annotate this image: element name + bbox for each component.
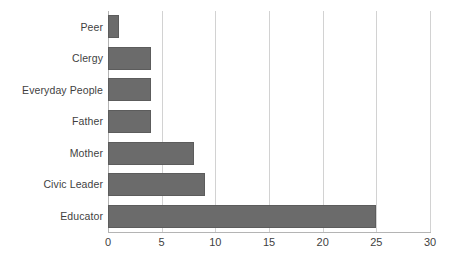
bar-row [108,137,430,169]
value-axis-labels: 051015202530 [108,237,430,255]
category-label-everyday-people: Everyday People [22,85,103,96]
category-label-row: Clergy [0,43,103,75]
bar-row [108,169,430,201]
category-axis: Peer Clergy Everyday People Father Mothe… [0,11,103,232]
category-label-educator: Educator [60,211,103,222]
bar-clergy [108,47,151,70]
category-label-row: Father [0,106,103,138]
bar-civic-leader [108,173,205,196]
category-label-civic-leader: Civic Leader [43,179,103,190]
category-label-row: Peer [0,11,103,43]
value-tick-label-10: 10 [209,237,221,248]
bar-row [108,200,430,232]
category-label-row: Everyday People [0,74,103,106]
bar-everyday-people [108,78,151,101]
bar-row [108,11,430,43]
value-tick-label-5: 5 [159,237,165,248]
value-tick-label-0: 0 [105,237,111,248]
bar-row [108,106,430,138]
bar-educator [108,205,376,228]
category-label-father: Father [72,116,103,127]
category-label-row: Mother [0,137,103,169]
category-label-mother: Mother [70,148,103,159]
gridline-30 [430,11,431,232]
bar-row [108,74,430,106]
bar-chart: Peer Clergy Everyday People Father Mothe… [0,0,450,267]
value-tick-label-15: 15 [263,237,275,248]
plot-area [108,11,430,232]
category-label-peer: Peer [80,22,103,33]
category-label-clergy: Clergy [72,53,103,64]
value-axis-line [108,232,431,233]
value-tick-label-30: 30 [424,237,436,248]
bars-layer [108,11,430,232]
category-label-row: Educator [0,200,103,232]
bar-peer [108,15,119,38]
bar-father [108,110,151,133]
value-tick-label-25: 25 [370,237,382,248]
category-label-row: Civic Leader [0,169,103,201]
bar-row [108,43,430,75]
value-tick-label-20: 20 [317,237,329,248]
bar-mother [108,142,194,165]
